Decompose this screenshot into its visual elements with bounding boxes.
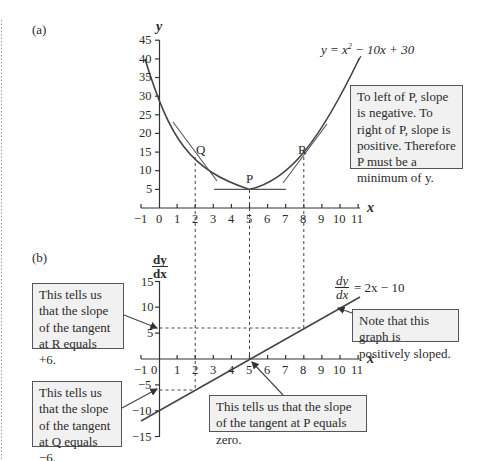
y-tick: 30 [139, 89, 152, 103]
x-tick: 3 [210, 212, 216, 226]
x-tick: 7 [282, 363, 288, 377]
x-tick: 9 [318, 363, 324, 377]
x-tick: 9 [318, 212, 324, 226]
x-tick: −1 [134, 212, 147, 226]
point-label-p: P [246, 171, 253, 186]
x-tick: 7 [282, 212, 288, 226]
x-tick: 11 [351, 212, 363, 226]
slope-at-q-note-box: This tells us that the slope of the tang… [32, 381, 122, 447]
x-tick: 2 [192, 363, 198, 377]
y-tick: 10 [139, 163, 152, 177]
y-tick: −10 [132, 404, 152, 418]
y-tick: 25 [139, 108, 152, 122]
y-tick: 45 [139, 33, 152, 47]
y-tick: 10 [141, 300, 154, 314]
x-tick: 1 [174, 212, 180, 226]
parabola-curve [145, 58, 360, 189]
y-tick: 35 [139, 70, 152, 84]
point-label-q: Q [196, 142, 205, 157]
panel-a-x-axis-label: x [367, 200, 374, 215]
slope-at-p-note-box: This tells us that the slope of the tang… [209, 395, 367, 432]
y-tick: 40 [139, 52, 152, 66]
minimum-explanation-box: To left of P, slope is negative. To righ… [350, 85, 463, 169]
x-tick: 6 [264, 212, 270, 226]
x-tick: 10 [333, 212, 346, 226]
callout-arrows [122, 308, 352, 408]
y-tick: 5 [147, 326, 153, 340]
x-tick: 5 [246, 363, 252, 377]
y-tick: −15 [132, 430, 152, 444]
parabola-equation: y = x2 − 10x + 30 [321, 39, 414, 57]
x-tick: 0 [156, 212, 162, 226]
panel-b-label: (b) [32, 250, 47, 265]
derivative-equation-fraction: dy dx [335, 274, 349, 301]
x-tick: 3 [210, 363, 216, 377]
x-tick: 2 [192, 212, 198, 226]
x-tick: 11 [351, 363, 363, 377]
dx-label: dx [152, 267, 168, 280]
y-tick: 15 [139, 145, 152, 159]
x-tick: 8 [300, 363, 306, 377]
x-tick: 6 [264, 363, 270, 377]
y-tick: −5 [138, 378, 151, 392]
panel-a-y-axis-label: y [156, 19, 162, 34]
tangent-q [173, 122, 217, 181]
y-tick: 5 [146, 182, 152, 196]
point-label-r: R [298, 142, 307, 157]
x-tick: −1 [134, 363, 147, 377]
slope-at-r-note-box: This tells us that the slope of the tang… [32, 283, 124, 349]
derivative-equation-rhs: = 2x − 10 [354, 280, 404, 295]
y-tick: 20 [139, 126, 152, 140]
y-tick: 15 [141, 275, 154, 289]
x-tick: 4 [228, 363, 234, 377]
x-tick: 0 [151, 363, 157, 377]
x-tick: 10 [333, 363, 346, 377]
x-tick: 1 [174, 363, 180, 377]
dy-label: dy [152, 253, 168, 267]
panel-b-y-axis-label: dy dx [152, 253, 168, 280]
x-tick: 5 [246, 212, 252, 226]
panel-a-label: (a) [32, 22, 46, 37]
x-tick: 4 [228, 212, 234, 226]
x-tick: 8 [300, 212, 306, 226]
positive-slope-note-box: Note that this graph is positively slope… [352, 309, 459, 342]
